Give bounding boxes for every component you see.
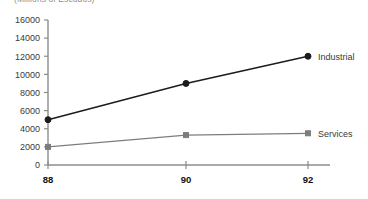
x-axis-tick-label: 88 (43, 174, 54, 185)
y-axis-tick-label: 4000 (20, 124, 40, 134)
x-axis-tick-label: 92 (303, 174, 314, 185)
series-line-industrial (48, 56, 308, 119)
y-axis-tick-label: 8000 (20, 88, 40, 98)
data-point-industrial-90 (183, 80, 189, 86)
x-axis-tick-label: 90 (181, 174, 192, 185)
y-axis-tick-label: 10000 (15, 70, 40, 80)
data-point-services-90 (184, 133, 189, 138)
line-chart-plot: 0200040006000800010000120001400016000 88… (0, 0, 368, 199)
chart-container: (Millions of Escudos) 020004000600080001… (0, 0, 368, 199)
series-label-services: Services (318, 129, 353, 139)
y-axis-tick-label: 14000 (15, 33, 40, 43)
y-axis-tick-label: 2000 (20, 142, 40, 152)
series-line-services (48, 133, 308, 147)
y-axis-tick-label: 16000 (15, 15, 40, 25)
y-axis-tick-labels: 0200040006000800010000120001400016000 (15, 15, 40, 170)
series-lines-group (48, 56, 308, 147)
data-point-services-92 (306, 131, 311, 136)
y-axis-tick-label: 12000 (15, 52, 40, 62)
data-point-industrial-88 (45, 117, 51, 123)
data-point-services-88 (46, 144, 51, 149)
series-label-industrial: Industrial (318, 52, 355, 62)
y-axis-tick-label: 0 (35, 160, 40, 170)
series-markers-group (45, 53, 311, 149)
x-axis-tick-labels: 889092 (43, 174, 314, 185)
data-point-industrial-92 (305, 53, 311, 59)
y-axis-tick-label: 6000 (20, 106, 40, 116)
series-inline-legend: IndustrialServices (318, 52, 355, 139)
